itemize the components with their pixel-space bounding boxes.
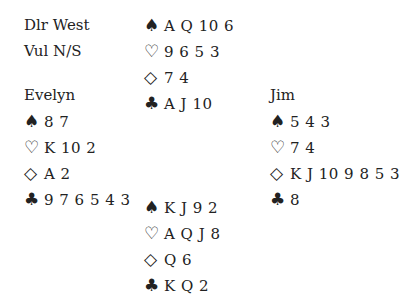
east-hearts: 7 4 — [290, 139, 315, 157]
east-spades: 5 4 3 — [290, 113, 331, 131]
south-hearts: A Q J 8 — [164, 225, 221, 243]
north-spades: A Q 10 6 — [164, 17, 234, 35]
vulnerability-label: Vul N/S — [24, 38, 90, 64]
north-hand: ♠A Q 10 6 ♡9 6 5 3 ◇7 4 ♣A J 10 — [144, 12, 234, 116]
east-hand: Jim ♠5 4 3 ♡7 4 ◇K J 10 9 8 5 3 ♣8 — [270, 82, 400, 212]
south-diamonds: Q 6 — [164, 251, 192, 269]
south-spades: K J 9 2 — [164, 199, 218, 217]
diamond-icon: ◇ — [144, 64, 164, 90]
diamond-icon: ◇ — [270, 160, 290, 186]
club-icon: ♣ — [144, 90, 164, 116]
west-diamonds: A 2 — [44, 165, 71, 183]
heart-icon: ♡ — [270, 134, 290, 160]
west-spades: 8 7 — [44, 113, 69, 131]
club-icon: ♣ — [270, 186, 290, 212]
east-diamonds: K J 10 9 8 5 3 — [290, 165, 400, 183]
spade-icon: ♠ — [144, 194, 164, 220]
east-clubs: 8 — [290, 191, 300, 209]
dealer-label: Dlr West — [24, 12, 90, 38]
diamond-icon: ◇ — [24, 160, 44, 186]
spade-icon: ♠ — [144, 12, 164, 38]
spade-icon: ♠ — [24, 108, 44, 134]
club-icon: ♣ — [24, 186, 44, 212]
north-clubs: A J 10 — [164, 95, 212, 113]
south-clubs: K Q 2 — [164, 277, 209, 295]
south-hand: ♠K J 9 2 ♡A Q J 8 ◇Q 6 ♣K Q 2 — [144, 194, 221, 298]
north-diamonds: 7 4 — [164, 69, 189, 87]
heart-icon: ♡ — [144, 38, 164, 64]
west-clubs: 9 7 6 5 4 3 — [44, 191, 131, 209]
diamond-icon: ◇ — [144, 246, 164, 272]
heart-icon: ♡ — [144, 220, 164, 246]
west-player-name: Evelyn — [24, 82, 131, 108]
deal-info: Dlr West Vul N/S — [24, 12, 90, 64]
heart-icon: ♡ — [24, 134, 44, 160]
west-hearts: K 10 2 — [44, 139, 96, 157]
spade-icon: ♠ — [270, 108, 290, 134]
north-hearts: 9 6 5 3 — [164, 43, 220, 61]
club-icon: ♣ — [144, 272, 164, 298]
east-player-name: Jim — [270, 82, 400, 108]
west-hand: Evelyn ♠8 7 ♡K 10 2 ◇A 2 ♣9 7 6 5 4 3 — [24, 82, 131, 212]
